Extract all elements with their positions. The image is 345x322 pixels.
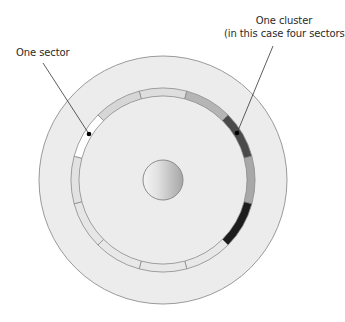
label-one-cluster: One cluster (in this case four sectors) [224, 14, 344, 40]
cluster-leader-dot [235, 131, 240, 136]
label-one-sector: One sector [16, 46, 70, 59]
label-cluster-title: One cluster [224, 14, 344, 27]
sector-leader-dot [87, 132, 92, 137]
label-cluster-note: (in this case four sectors) [224, 27, 344, 40]
spindle-hub [143, 160, 183, 200]
